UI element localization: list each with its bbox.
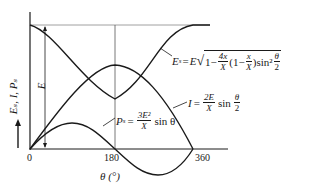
two-E: 2E bbox=[203, 92, 215, 103]
es-lhs: E bbox=[172, 55, 179, 67]
ps-formula: Ps = 3E²X sin θ bbox=[116, 110, 175, 131]
i-lhs: I bbox=[188, 97, 192, 109]
X4: X bbox=[141, 121, 147, 131]
two: 2 bbox=[274, 62, 279, 72]
ps-sub: s bbox=[123, 117, 126, 125]
curve-i bbox=[30, 65, 193, 149]
theta: θ bbox=[274, 51, 280, 62]
X2: X bbox=[246, 62, 252, 72]
es-sub: s bbox=[179, 57, 182, 65]
x-axis-label: θ (°) bbox=[100, 170, 120, 182]
X3: X bbox=[206, 103, 212, 113]
x-tick-180: 180 bbox=[104, 152, 119, 163]
one2: 1− bbox=[233, 56, 245, 68]
x-tick-0: 0 bbox=[27, 152, 32, 163]
theta-i: θ bbox=[234, 92, 240, 103]
x: x bbox=[246, 51, 252, 62]
up-arrow-icon bbox=[15, 119, 21, 148]
eq-ps: = bbox=[127, 115, 133, 127]
X1: X bbox=[220, 62, 226, 72]
three-E2: 3E² bbox=[137, 110, 152, 121]
e-magnitude-label: E bbox=[35, 83, 47, 90]
es-formula: Es = E √ 1− 4xX ( 1− xX ) sin² θ2 bbox=[172, 50, 281, 72]
x-tick-360: 360 bbox=[195, 152, 210, 163]
ps-leader bbox=[103, 118, 115, 126]
es-E: E bbox=[190, 55, 197, 67]
one: 1− bbox=[205, 56, 217, 68]
sin: sin bbox=[218, 97, 231, 109]
eq-i: = bbox=[194, 97, 200, 109]
diagram-canvas bbox=[0, 0, 319, 193]
es-leader bbox=[160, 48, 172, 56]
two-i: 2 bbox=[235, 103, 240, 113]
sin2: sin² bbox=[256, 56, 272, 68]
i-formula: I = 2EX sin θ2 bbox=[188, 92, 241, 113]
ps-lhs: P bbox=[116, 115, 123, 127]
sin-theta: sin θ bbox=[154, 115, 175, 127]
four-x: 4x bbox=[218, 51, 229, 62]
i-leader bbox=[173, 102, 187, 108]
eq: = bbox=[182, 55, 188, 67]
y-axis-label: Eₛ, I, Pₛ bbox=[7, 79, 20, 115]
